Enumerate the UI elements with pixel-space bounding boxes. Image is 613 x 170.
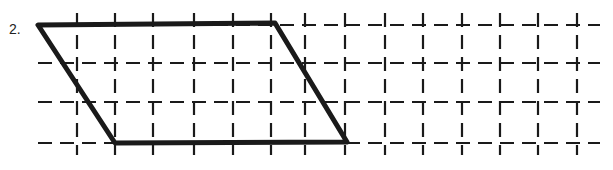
parallelogram	[38, 23, 347, 143]
dashed-grid	[38, 13, 600, 155]
parallelogram-grid-diagram	[0, 0, 613, 170]
